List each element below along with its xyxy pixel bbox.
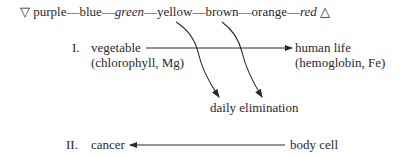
diagram-arrows (0, 0, 405, 157)
brown-to-elimination-arrow (222, 22, 262, 97)
yellow-to-elimination-arrow (176, 22, 219, 97)
